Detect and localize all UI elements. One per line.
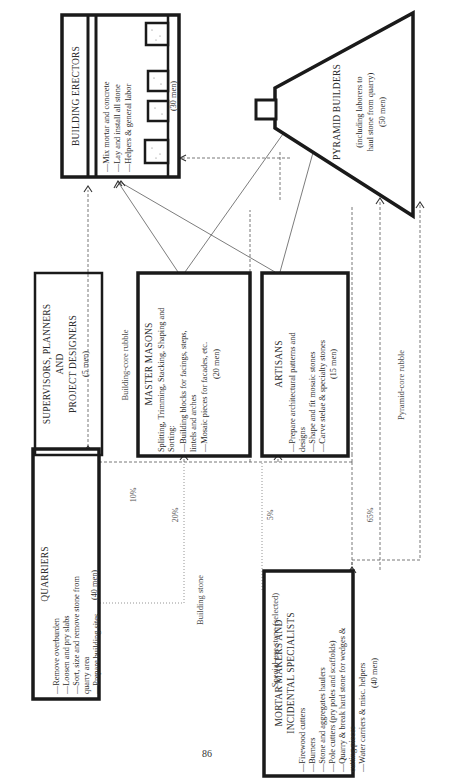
pct-artisans: 5% (266, 509, 275, 520)
pyramid-builders-shape: PYRAMID BUILDERS (including laborers to … (256, 13, 413, 216)
artisans-box: ARTISANS —Prepare architectural patterns… (262, 273, 348, 456)
svg-text:(20 men): (20 men) (212, 349, 221, 379)
pct-pyramid-core: 65% (366, 507, 375, 522)
svg-text:MASTER MASONS: MASTER MASONS (144, 322, 154, 405)
svg-text:SUPERVISORS, PLANNERS: SUPERVISORS, PLANNERS (42, 304, 52, 425)
svg-text:—Shape and fit mosaic stones: —Shape and fit mosaic stones (308, 352, 317, 453)
svg-text:—Mix mortar and concrete: —Mix mortar and concrete (102, 81, 111, 173)
svg-text:—Sort, size and remove stone f: —Sort, size and remove stone from (72, 575, 81, 695)
svg-text:Sorting:: Sorting: (167, 425, 176, 452)
svg-text:(30 men): (30 men) (169, 81, 178, 111)
svg-text:(40 men): (40 men) (90, 570, 99, 600)
quarriers-box: QUARRIERS —Remove overburden —Loosen and… (33, 449, 101, 699)
supervisors-box: SUPERVISORS, PLANNERS AND PROJECT DESIGN… (35, 273, 102, 455)
svg-text:AND: AND (55, 353, 65, 374)
svg-text:—Stone and aggregates haulers: —Stone and aggregates haulers (318, 667, 327, 773)
svg-text:—Pole cutters (pry poles and s: —Pole cutters (pry poles and scaffolds) (328, 640, 337, 773)
svg-text:(50 men): (50 men) (378, 97, 387, 127)
svg-text:—Prepare building sites: —Prepare building sites (92, 614, 101, 695)
pyramid-core-rubble-label: Pyramid-core rubble (396, 350, 406, 420)
quarriers-title: QUARRIERS (40, 546, 50, 602)
svg-text:(including laborers to: (including laborers to (355, 76, 364, 147)
building-erectors-box: BUILDING ERECTORS —Mix mortar and concre… (62, 15, 179, 177)
svg-text:PROJECT DESIGNERS: PROJECT DESIGNERS (68, 315, 78, 413)
svg-text:—Building blocks for facings,: —Building blocks for facings, steps, (179, 330, 188, 453)
svg-text:haul stone from quarry): haul stone from quarry) (366, 72, 375, 151)
svg-text:cutting pieces: cutting pieces (348, 726, 357, 772)
special-use-stone-label: Special-use stone (selected) (270, 593, 280, 688)
organization-flow-diagram: QUARRIERS —Remove overburden —Loosen and… (0, 0, 459, 783)
svg-text:(5 men): (5 men) (81, 351, 90, 377)
building-core-rubble-label: Building-core rubble (120, 329, 130, 400)
svg-text:—Helpers & general labor: —Helpers & general labor (124, 84, 133, 173)
pct-masons: 20% (171, 507, 180, 522)
svg-text:—Carve stelae & specialty ston: —Carve stelae & specialty stones (318, 340, 327, 453)
svg-text:—Loosen and pry slabs: —Loosen and pry slabs (62, 615, 71, 695)
svg-text:(15 men): (15 men) (329, 349, 338, 379)
master-masons-box: MASTER MASONS Splitting, Trimming, Stack… (138, 273, 250, 456)
svg-text:BUILDING ERECTORS: BUILDING ERECTORS (71, 46, 81, 146)
svg-text:—Firewood cutters: —Firewood cutters (298, 708, 307, 773)
page-number: 86 (202, 748, 212, 759)
svg-text:—Mosaic pieces for facades, et: —Mosaic pieces for facades, etc. (200, 342, 209, 453)
mortar-makers-box: MORTAR MAKERS AND INCIDENTAL SPECIALISTS… (264, 571, 379, 776)
svg-text:—Prepare architectural pattern: —Prepare architectural patterns and (288, 332, 297, 453)
building-stone-label: Building stone (195, 575, 205, 625)
svg-text:(40 men): (40 men) (370, 658, 379, 688)
svg-text:—Lay and install all stone: —Lay and install all stone (113, 84, 122, 173)
svg-text:—Remove overburden: —Remove overburden (52, 617, 61, 695)
svg-text:Splitting, Trimming, Stacking,: Splitting, Trimming, Stacking, Shaping a… (157, 307, 166, 452)
svg-text:ARTISANS: ARTISANS (274, 340, 284, 387)
svg-text:PYRAMID BUILDERS: PYRAMID BUILDERS (332, 64, 342, 160)
svg-text:—Water carriers & misc. helper: —Water carriers & misc. helpers (358, 663, 367, 773)
svg-text:—Burners: —Burners (308, 737, 317, 773)
svg-text:lintels and arches: lintels and arches (189, 394, 198, 452)
pct-building-core: 10% (129, 487, 138, 502)
svg-text:designs: designs (298, 427, 307, 452)
svg-text:INCIDENTAL SPECIALISTS: INCIDENTAL SPECIALISTS (286, 612, 296, 733)
svg-text:—Quarry & break hard stone for: —Quarry & break hard stone for wedges & (338, 627, 347, 773)
svg-text:quarry area: quarry area (82, 656, 91, 694)
